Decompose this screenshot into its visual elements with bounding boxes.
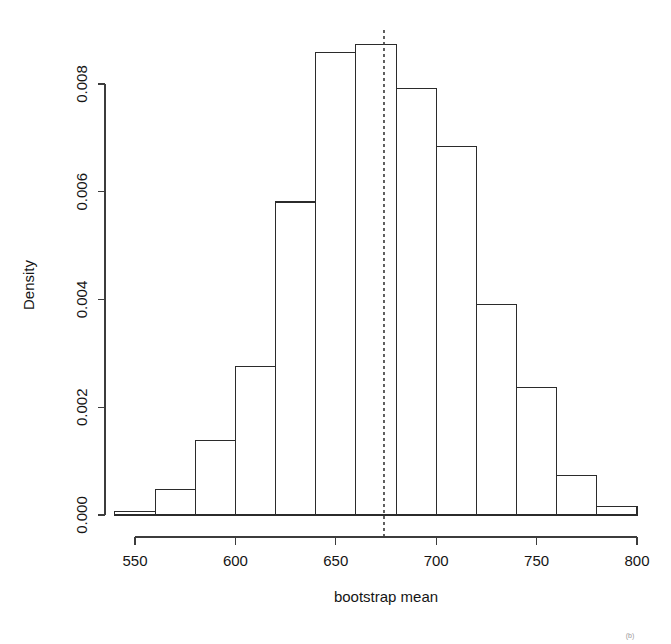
x-axis-tick-label: 800 xyxy=(624,552,649,569)
histogram-bar xyxy=(155,490,195,515)
x-axis-tick-labels: 550600650700750800 xyxy=(122,552,649,569)
y-axis-tick-label: 0.008 xyxy=(73,65,90,103)
histogram-bar xyxy=(276,202,316,515)
y-axis-tick-label: 0.006 xyxy=(73,173,90,211)
histogram-bar xyxy=(557,475,597,515)
x-axis-tick-label: 550 xyxy=(122,552,147,569)
x-axis-title: bootstrap mean xyxy=(334,588,438,605)
x-axis-tick-label: 650 xyxy=(323,552,348,569)
histogram-bar xyxy=(235,366,275,515)
histogram-bar xyxy=(195,441,235,515)
figure-corner-mark: (b) xyxy=(626,632,635,640)
y-axis-tick-label: 0.000 xyxy=(73,496,90,534)
y-axis-title: Density xyxy=(20,259,37,310)
histogram-bar xyxy=(597,507,637,515)
histogram-bar xyxy=(436,147,476,516)
histogram-bars xyxy=(115,45,637,515)
x-axis-tick-label: 750 xyxy=(524,552,549,569)
y-axis-tick-label: 0.002 xyxy=(73,388,90,426)
histogram-bar xyxy=(356,45,396,515)
x-axis xyxy=(135,537,637,545)
histogram-bar xyxy=(316,52,356,515)
histogram-figure: 0.0000.0020.0040.0060.008 55060065070075… xyxy=(0,0,671,644)
y-axis-tick-label: 0.004 xyxy=(73,281,90,319)
y-axis xyxy=(98,84,105,515)
histogram-bar xyxy=(476,305,516,515)
histogram-bar xyxy=(517,388,557,515)
x-axis-tick-label: 600 xyxy=(223,552,248,569)
x-axis-tick-label: 700 xyxy=(424,552,449,569)
histogram-bar xyxy=(396,89,436,515)
plot-canvas: 0.0000.0020.0040.0060.008 55060065070075… xyxy=(0,0,671,644)
y-axis-tick-labels: 0.0000.0020.0040.0060.008 xyxy=(73,65,90,534)
histogram-bar xyxy=(115,511,155,515)
